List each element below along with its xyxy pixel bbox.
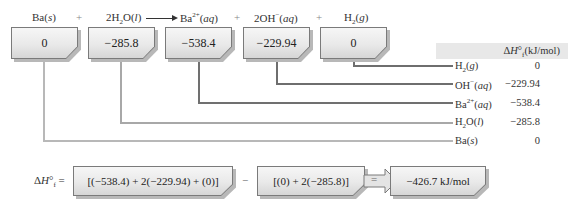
plus-sign: + bbox=[234, 11, 240, 23]
connector-barium-ion-across bbox=[198, 102, 453, 104]
products-sum-text: [(−538.4) + 2(−229.94) + (0)] bbox=[74, 167, 232, 195]
value-text: −229.94 bbox=[244, 28, 309, 58]
enthalpy-value: −285.8 bbox=[470, 116, 540, 127]
enthalpy-value: 0 bbox=[470, 60, 540, 71]
plus-sign: + bbox=[316, 11, 322, 23]
reactant-ba-solid: Ba(s) bbox=[32, 11, 56, 23]
reactants-sum-box: [(0) + 2(−285.8)] bbox=[257, 166, 365, 196]
value-text: 0 bbox=[321, 28, 386, 58]
products-sum-box: [(−538.4) + 2(−229.94) + (0)] bbox=[73, 166, 233, 196]
connector-water-across bbox=[120, 122, 453, 124]
connector-water-down bbox=[120, 58, 122, 124]
reaction-arrow-head bbox=[172, 15, 178, 21]
reactant-water: 2H2O(l) bbox=[106, 11, 141, 26]
product-barium-ion: Ba2+(aq) bbox=[180, 11, 218, 24]
value-box-hydroxide: −229.94 bbox=[243, 27, 310, 59]
plus-sign: + bbox=[76, 11, 82, 23]
connector-hydroxide-down bbox=[276, 58, 278, 85]
value-text: −538.4 bbox=[166, 28, 231, 58]
equals-sign: = bbox=[371, 173, 377, 185]
product-hydrogen: H2(g) bbox=[344, 11, 368, 26]
value-box-barium-ion: −538.4 bbox=[165, 27, 232, 59]
value-box-ba-solid: 0 bbox=[11, 27, 78, 59]
connector-ba-solid-down bbox=[43, 58, 45, 142]
result-text: −426.7 kJ/mol bbox=[391, 167, 485, 195]
delta-h-label: ΔH°f = bbox=[34, 174, 65, 189]
reactants-sum-text: [(0) + 2(−285.8)] bbox=[258, 167, 364, 195]
enthalpy-value: 0 bbox=[470, 135, 540, 146]
connector-hydrogen-across bbox=[353, 65, 453, 67]
enthalpy-value: −229.94 bbox=[470, 78, 540, 89]
value-text: 0 bbox=[12, 28, 77, 58]
product-hydroxide: 2OH−(aq) bbox=[254, 11, 298, 24]
value-text: −285.8 bbox=[89, 28, 154, 58]
value-box-water: −285.8 bbox=[88, 27, 155, 59]
connector-ba-solid-across bbox=[43, 140, 453, 142]
minus-sign: − bbox=[242, 174, 248, 186]
enthalpy-value: −538.4 bbox=[470, 97, 540, 108]
connector-hydroxide-across bbox=[276, 83, 453, 85]
connector-barium-ion-down bbox=[198, 58, 200, 104]
result-box: −426.7 kJ/mol bbox=[390, 166, 486, 196]
table-header: ΔH°f(kJ/mol) bbox=[436, 45, 560, 59]
value-box-hydrogen: 0 bbox=[320, 27, 387, 59]
